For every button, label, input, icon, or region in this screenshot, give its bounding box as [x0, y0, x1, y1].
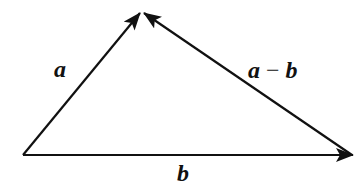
vector-a-minus-b-arrow — [144, 13, 352, 155]
label-minus-operator: − — [260, 57, 286, 83]
vector-diagram: a b a − b — [0, 0, 364, 191]
label-a-minus-b-a: a — [248, 57, 260, 83]
label-a: a — [54, 56, 66, 82]
label-a-minus-b-b: b — [286, 57, 298, 83]
label-a-minus-b: a − b — [248, 57, 298, 83]
label-b: b — [177, 160, 189, 186]
vector-a-arrow — [23, 13, 140, 155]
